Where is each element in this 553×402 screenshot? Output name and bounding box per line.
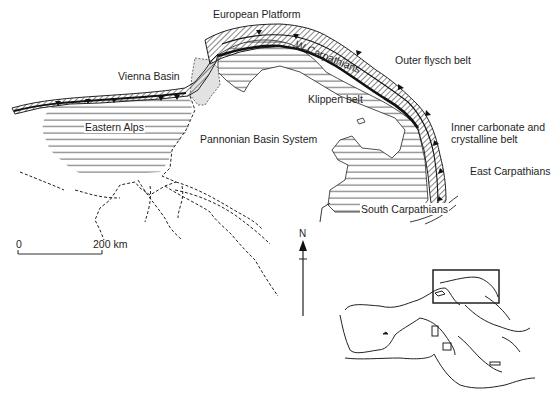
- scale-end-label: 200 km: [93, 238, 127, 250]
- label-inner-carbonate-line1: Inner carbonate and: [451, 121, 545, 133]
- label-inner-carbonate-line2: crystalline belt: [451, 133, 518, 145]
- label-pannonian-basin-system: Pannonian Basin System: [200, 133, 317, 145]
- label-vienna-basin: Vienna Basin: [118, 70, 180, 82]
- label-east-carpathians: East Carpathians: [470, 165, 551, 177]
- label-european-platform: European Platform: [213, 8, 301, 20]
- label-klippen-belt: Klippen belt: [308, 93, 363, 105]
- label-south-carpathians: South Carpathians: [360, 203, 449, 215]
- north-label: N: [299, 228, 306, 240]
- label-outer-flysch-belt: Outer flysch belt: [395, 54, 471, 66]
- scale-start-label: 0: [16, 238, 22, 250]
- north-arrow: [299, 240, 307, 316]
- label-eastern-alps: Eastern Alps: [84, 121, 145, 133]
- vienna-basin-area: [190, 58, 220, 105]
- small-island: [357, 118, 365, 124]
- inset-map: [340, 270, 535, 388]
- scale-bar: [18, 250, 102, 254]
- eastern-alps-unit: [42, 96, 192, 176]
